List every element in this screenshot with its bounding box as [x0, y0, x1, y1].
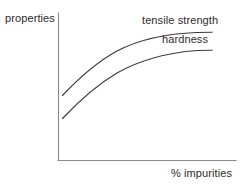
series-label-tensile-strength: tensile strength: [142, 14, 218, 27]
chart-plot-area: [0, 0, 249, 185]
chart-figure: properties % impurities tensile strength…: [0, 0, 249, 185]
y-axis-label: properties: [5, 12, 55, 25]
series-label-hardness: hardness: [162, 33, 208, 46]
curve-hardness: [63, 50, 213, 118]
x-axis-label: % impurities: [171, 167, 232, 180]
